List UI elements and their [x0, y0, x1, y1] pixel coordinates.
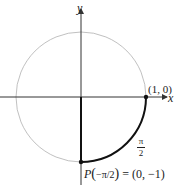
arc-label-denominator: 2: [137, 148, 145, 158]
point-P-arg: −π/2: [96, 169, 114, 180]
point-P-value: = (0, −1): [122, 167, 165, 181]
arc-label-numerator: π: [137, 137, 145, 148]
point-P: [79, 160, 83, 164]
point-1-0-label: (1, 0): [148, 84, 172, 95]
point-1-0: [144, 95, 148, 99]
y-axis-label: y: [77, 2, 82, 14]
arc-label: π 2: [137, 137, 145, 158]
point-P-label: P(−π/2) = (0, −1): [84, 167, 165, 181]
